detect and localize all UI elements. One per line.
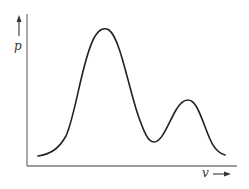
chart-canvas	[0, 0, 249, 189]
distribution-curve	[38, 29, 225, 156]
y-axis-label: p	[14, 40, 22, 52]
x-arrow-icon	[213, 172, 231, 177]
y-arrow-icon	[17, 15, 22, 36]
x-axis-label: v	[202, 167, 209, 179]
